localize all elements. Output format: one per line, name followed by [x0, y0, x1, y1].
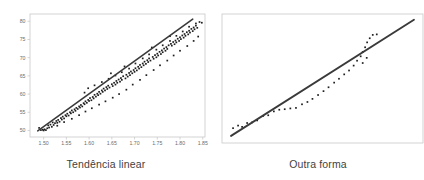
data-point: [232, 127, 234, 129]
data-point: [301, 103, 303, 105]
scatter-plot-right: [212, 0, 424, 180]
data-point: [66, 115, 68, 117]
scatter-plot-left: 505560657075801.501.551.601.651.701.751.…: [0, 0, 212, 180]
data-point: [63, 118, 65, 120]
data-point: [323, 90, 325, 92]
data-point: [109, 87, 111, 89]
data-point: [153, 69, 155, 71]
trend-line-left: [38, 19, 193, 131]
data-point: [51, 126, 53, 128]
data-point: [159, 51, 161, 53]
data-point: [185, 35, 187, 37]
data-point: [119, 81, 121, 83]
data-point: [166, 48, 168, 50]
data-point: [364, 46, 366, 48]
data-point: [112, 85, 114, 87]
data-point: [143, 64, 145, 66]
data-point: [120, 77, 122, 79]
data-point: [80, 104, 82, 106]
data-point: [113, 82, 115, 84]
data-point: [130, 71, 132, 73]
data-point: [174, 43, 176, 45]
data-point: [54, 122, 56, 124]
data-point: [176, 35, 178, 37]
data-point: [94, 94, 96, 96]
data-point: [166, 46, 168, 48]
data-point: [84, 103, 86, 105]
data-point: [333, 82, 335, 84]
data-point: [74, 108, 76, 110]
data-point: [376, 34, 378, 36]
data-point: [328, 86, 330, 88]
data-point: [176, 42, 178, 44]
y-tick-label: 70: [20, 55, 26, 61]
data-point: [195, 25, 197, 27]
data-point: [71, 110, 73, 112]
y-tick-label: 65: [20, 73, 26, 79]
data-point: [360, 55, 362, 57]
data-point: [101, 81, 103, 83]
data-point: [175, 40, 177, 42]
data-point: [159, 64, 161, 66]
axis-ticks-left: [28, 21, 203, 139]
data-point: [338, 78, 340, 80]
data-point: [104, 90, 106, 92]
data-point: [92, 96, 94, 98]
data-point: [91, 99, 93, 101]
data-point: [183, 37, 185, 39]
data-point: [86, 102, 88, 104]
data-point: [169, 40, 171, 42]
data-point: [312, 98, 314, 100]
data-point: [89, 97, 91, 99]
data-point: [171, 45, 173, 47]
data-point: [105, 100, 107, 102]
data-point: [343, 74, 345, 76]
data-point: [135, 63, 137, 65]
data-point: [162, 51, 164, 53]
data-point: [153, 58, 155, 60]
data-point: [97, 94, 99, 96]
data-point: [98, 104, 100, 106]
data-point: [195, 23, 197, 25]
data-point: [112, 97, 114, 99]
data-point: [121, 79, 123, 81]
data-point: [81, 106, 83, 108]
data-point: [366, 42, 368, 44]
x-tick-label: 1.60: [84, 140, 94, 146]
data-point: [154, 54, 156, 56]
data-point: [184, 33, 186, 35]
data-point: [317, 94, 319, 96]
data-point: [68, 115, 70, 117]
data-point: [165, 50, 167, 52]
trend-line-right: [231, 20, 414, 136]
data-point: [96, 93, 98, 95]
data-point: [137, 66, 139, 68]
data-point: [127, 76, 129, 78]
y-tick-label: 60: [20, 91, 26, 97]
data-point: [278, 109, 280, 111]
data-point: [60, 117, 62, 119]
data-point: [103, 88, 105, 90]
data-point: [101, 90, 103, 92]
data-point: [142, 63, 144, 65]
data-point: [141, 66, 143, 68]
data-point: [85, 100, 87, 102]
data-point: [197, 36, 199, 38]
data-point: [128, 68, 130, 70]
data-point: [102, 91, 104, 93]
data-point: [163, 48, 165, 50]
data-point: [91, 107, 93, 109]
data-point: [94, 84, 96, 86]
data-point: [362, 62, 364, 64]
data-point: [93, 98, 95, 100]
data-point: [72, 111, 74, 113]
data-point: [106, 88, 108, 90]
data-point: [98, 91, 100, 93]
x-tick-label: 1.50: [39, 140, 49, 146]
data-point: [115, 84, 117, 86]
data-point: [267, 114, 269, 116]
data-point: [146, 74, 148, 76]
data-point: [116, 80, 118, 82]
data-point: [166, 60, 168, 62]
data-point: [187, 34, 189, 36]
